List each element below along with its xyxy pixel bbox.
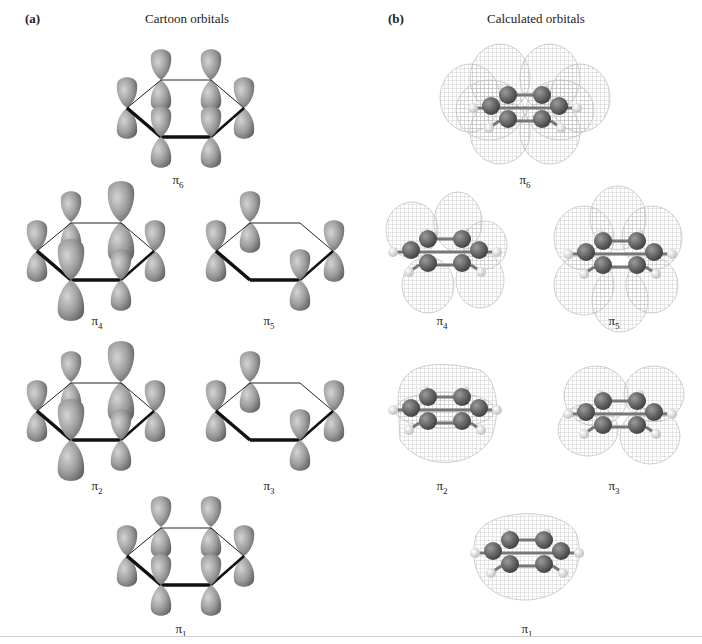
label-a-pi5: π5	[263, 313, 274, 331]
cartoon-pi5	[206, 191, 344, 311]
label-b-pi2: π2	[436, 478, 447, 496]
calculated-pi5	[554, 186, 682, 332]
label-a-pi2: π2	[91, 478, 102, 496]
cartoon-pi6	[117, 49, 254, 168]
cartoon-pi2	[27, 341, 165, 481]
label-b-pi5: π5	[608, 313, 619, 331]
bottom-rule	[0, 636, 702, 637]
cartoon-pi4	[27, 181, 165, 321]
label-a-pi6: π6	[172, 172, 183, 190]
cartoon-pi3	[206, 351, 344, 471]
label-b-pi3: π3	[608, 478, 619, 496]
label-a-pi4: π4	[91, 313, 102, 331]
label-b-pi6: π6	[519, 172, 530, 190]
orbital-figure	[0, 0, 702, 644]
calculated-pi6	[440, 44, 610, 164]
label-a-pi3: π3	[263, 478, 274, 496]
label-b-pi4: π4	[436, 313, 447, 331]
cartoon-pi1	[117, 496, 254, 616]
